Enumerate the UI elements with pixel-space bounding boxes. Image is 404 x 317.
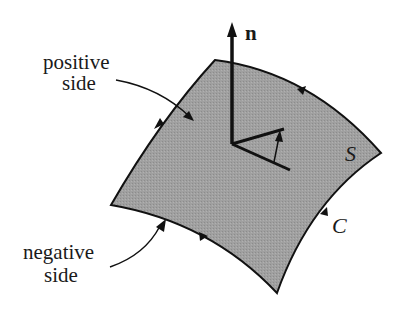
negative-side-pointer <box>110 226 160 267</box>
negative-side-label-line1: negative <box>23 240 94 264</box>
negative-side-label-line2: side <box>44 263 78 287</box>
normal-label: n <box>245 21 257 45</box>
surface-label: S <box>345 141 356 166</box>
normal-arrowhead-icon <box>227 22 237 37</box>
surface-patch <box>111 60 381 293</box>
positive-side-label-line2: side <box>62 71 96 95</box>
curve-label: C <box>332 213 347 238</box>
surface-diagram: n positive side negative side S C <box>0 0 404 317</box>
